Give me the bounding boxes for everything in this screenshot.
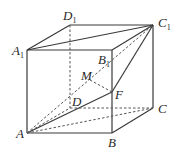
label-a1: A1 <box>11 43 24 60</box>
label-c: C <box>158 101 167 116</box>
edge-a1-c1 <box>27 25 153 50</box>
label-f: F <box>114 87 124 102</box>
edge-b-c <box>112 108 153 133</box>
label-c1: C1 <box>158 15 171 32</box>
label-b1: B1 <box>98 52 110 69</box>
cube-diagram: A1 D1 C1 B1 M D F C A B <box>0 0 180 157</box>
label-d1: D1 <box>62 8 76 25</box>
label-a: A <box>15 126 24 141</box>
label-m: M <box>80 68 93 83</box>
label-b: B <box>108 135 116 150</box>
label-d: D <box>71 94 82 109</box>
edge-a-c <box>27 108 153 133</box>
edge-f-c1 <box>112 25 153 92</box>
edge-m-f <box>90 80 112 92</box>
